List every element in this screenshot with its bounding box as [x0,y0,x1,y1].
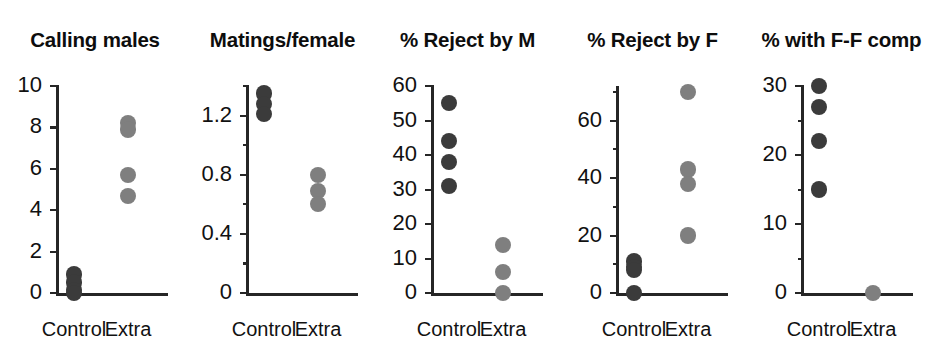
y-axis-tick-label: 10 [375,247,417,269]
y-axis-tick-label: 0 [190,281,232,303]
y-axis-tick [425,120,434,122]
data-point [680,84,696,100]
chart-panel-4: % Reject by F0204060ControlExtra [560,0,745,356]
y-axis-tick [795,223,804,225]
y-axis-tick [240,292,249,294]
y-axis-tick [425,189,434,191]
y-axis-tick [425,292,434,294]
data-point [256,106,272,122]
y-axis-tick-label: 0 [0,281,42,303]
y-axis-tick [613,91,619,93]
data-point [441,154,457,170]
data-point [811,133,827,149]
y-axis-tick [50,126,59,128]
y-axis-tick [240,174,249,176]
x-axis-category-label-extra: Extra [83,319,173,339]
data-point [120,121,136,137]
y-axis-tick [50,292,59,294]
y-axis-tick [243,203,249,205]
y-axis-tick-label: 60 [375,74,417,96]
y-axis-tick [610,177,619,179]
x-axis-line [801,293,913,296]
y-axis-tick-label: 10 [0,74,42,96]
y-axis-tick [610,292,619,294]
chart-panel-1: Calling males0246810ControlExtra [0,0,190,356]
y-axis-tick [243,144,249,146]
y-axis-tick [425,154,434,156]
data-point [865,285,881,301]
data-point [495,237,511,253]
y-axis-tick-label: 50 [375,109,417,131]
data-point [120,167,136,183]
data-point [811,181,827,197]
data-point [310,167,326,183]
y-axis-tick-label: 20 [375,212,417,234]
y-axis-tick-label: 20 [745,143,787,165]
y-axis-tick-label: 1.2 [190,104,232,126]
y-axis-line [801,86,804,296]
y-axis-tick-label: 0 [745,281,787,303]
y-axis-tick-label: 10 [745,212,787,234]
y-axis-tick [795,85,804,87]
data-point [310,196,326,212]
chart-panel-5: % with F-F comp0102030ControlExtra [745,0,938,356]
y-axis-tick [795,292,804,294]
data-point [626,285,642,301]
y-axis-tick-label: 0 [375,281,417,303]
y-axis-tick [798,120,804,122]
x-axis-category-label-extra: Extra [643,319,733,339]
figure-panel-row: Calling males0246810ControlExtraMatings/… [0,0,938,356]
plot-area: 0204060ControlExtra [560,0,745,356]
y-axis-tick-label: 30 [745,74,787,96]
x-axis-category-label-extra: Extra [828,319,918,339]
y-axis-tick [613,148,619,150]
y-axis-line [56,86,59,296]
y-axis-tick [240,115,249,117]
y-axis-tick [50,168,59,170]
data-point [66,285,82,301]
y-axis-tick [243,262,249,264]
y-axis-tick-label: 60 [560,109,602,131]
y-axis-tick [425,258,434,260]
y-axis-tick-label: 4 [0,198,42,220]
plot-area: 0102030405060ControlExtra [375,0,560,356]
data-point [495,264,511,280]
data-point [811,78,827,94]
data-point [441,178,457,194]
y-axis-line [431,86,434,296]
y-axis-tick [50,85,59,87]
plot-area: 0246810ControlExtra [0,0,190,356]
y-axis-tick [425,223,434,225]
y-axis-tick-label: 6 [0,157,42,179]
y-axis-tick [50,209,59,211]
data-point [680,176,696,192]
y-axis-tick-label: 0 [560,281,602,303]
data-point [626,262,642,278]
plot-area: 00.40.81.2ControlExtra [190,0,375,356]
y-axis-tick [795,154,804,156]
y-axis-tick-label: 0.4 [190,222,232,244]
y-axis-tick [613,263,619,265]
y-axis-tick [610,120,619,122]
y-axis-tick [240,233,249,235]
x-axis-line [246,293,358,296]
x-axis-category-label-extra: Extra [273,319,363,339]
y-axis-tick [610,235,619,237]
data-point [495,285,511,301]
chart-panel-3: % Reject by M0102030405060ControlExtra [375,0,560,356]
y-axis-tick-label: 20 [560,224,602,246]
y-axis-tick [613,206,619,208]
data-point [680,227,696,243]
chart-panel-2: Matings/female00.40.81.2ControlExtra [190,0,375,356]
y-axis-tick [50,251,59,253]
data-point [120,188,136,204]
plot-area: 0102030ControlExtra [745,0,938,356]
data-point [811,99,827,115]
y-axis-tick [798,189,804,191]
x-axis-category-label-extra: Extra [458,319,548,339]
y-axis-tick-label: 40 [375,143,417,165]
y-axis-tick [798,258,804,260]
y-axis-tick-label: 40 [560,166,602,188]
y-axis-tick [425,85,434,87]
y-axis-tick-label: 8 [0,115,42,137]
